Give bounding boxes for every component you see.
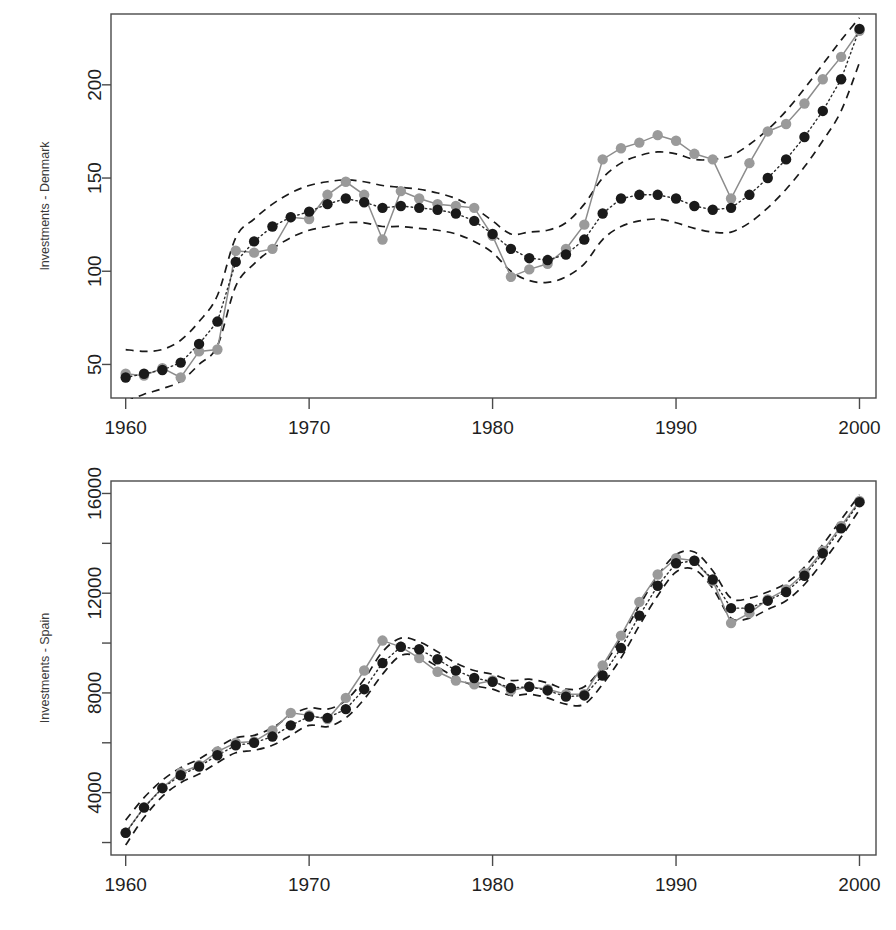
observed-point — [634, 597, 644, 607]
fitted-point — [597, 670, 607, 680]
observed-point — [689, 149, 699, 159]
panel-spain: 40008000120001600019601970198019902000In… — [0, 465, 896, 930]
fitted-point — [469, 216, 479, 226]
plot-group: 40008000120001600019601970198019902000In… — [38, 467, 881, 895]
y-tick-label: 4000 — [85, 772, 106, 814]
fitted-point — [726, 203, 736, 213]
fitted-line — [126, 502, 860, 833]
observed-line — [126, 31, 860, 378]
fitted-point — [854, 24, 864, 34]
fitted-point — [304, 206, 314, 216]
fitted-point — [432, 205, 442, 215]
fitted-point — [524, 253, 534, 263]
observed-point — [671, 136, 681, 146]
fitted-point — [506, 683, 516, 693]
observed-point — [341, 693, 351, 703]
fitted-point — [781, 154, 791, 164]
observed-point — [597, 154, 607, 164]
fitted-point — [506, 244, 516, 254]
x-tick-label: 1990 — [655, 874, 697, 895]
fitted-point — [726, 603, 736, 613]
y-tick-label: 150 — [85, 162, 106, 194]
observed-point — [267, 244, 277, 254]
observed-point — [377, 635, 387, 645]
fitted-point — [322, 713, 332, 723]
fitted-point — [249, 236, 259, 246]
observed-point — [763, 126, 773, 136]
observed-point — [432, 667, 442, 677]
figure-root: 5010015020019601970198019902000Investmen… — [0, 0, 896, 930]
y-axis-title: Investments - Spain — [38, 613, 52, 724]
x-tick-label: 1990 — [655, 417, 697, 438]
fitted-point — [432, 654, 442, 664]
observed-point — [322, 190, 332, 200]
fitted-point — [157, 783, 167, 793]
observed-line — [126, 501, 860, 833]
fitted-point — [469, 673, 479, 683]
fitted-point — [212, 316, 222, 326]
x-tick-label: 1970 — [288, 874, 330, 895]
observed-point — [249, 247, 259, 257]
fitted-point — [763, 595, 773, 605]
fitted-point — [194, 339, 204, 349]
fitted-point — [836, 74, 846, 84]
observed-point — [396, 186, 406, 196]
fitted-point — [616, 643, 626, 653]
fitted-point — [120, 828, 130, 838]
fitted-point — [451, 665, 461, 675]
fitted-point — [377, 203, 387, 213]
fitted-point — [267, 221, 277, 231]
observed-point — [286, 708, 296, 718]
observed-point — [414, 193, 424, 203]
fitted-point — [341, 193, 351, 203]
observed-point — [506, 272, 516, 282]
fitted-point — [176, 770, 186, 780]
observed-point — [341, 177, 351, 187]
fitted-point — [744, 190, 754, 200]
y-tick-label: 200 — [85, 69, 106, 101]
fitted-point — [579, 690, 589, 700]
fitted-point — [708, 205, 718, 215]
fitted-point — [139, 802, 149, 812]
fitted-point — [322, 199, 332, 209]
fitted-line — [126, 29, 860, 378]
fitted-point — [304, 711, 314, 721]
fitted-point — [487, 677, 497, 687]
y-axis-title: Investments - Denmark — [38, 141, 52, 271]
fitted-point — [542, 685, 552, 695]
observed-point — [451, 675, 461, 685]
curves-group — [120, 495, 864, 845]
observed-point — [708, 154, 718, 164]
observed-point — [176, 372, 186, 382]
band-upper-band — [126, 18, 860, 352]
fitted-point — [561, 691, 571, 701]
fitted-point — [744, 603, 754, 613]
observed-point — [652, 130, 662, 140]
fitted-point — [818, 548, 828, 558]
observed-point — [652, 569, 662, 579]
fitted-point — [231, 740, 241, 750]
fitted-point — [231, 257, 241, 267]
x-tick-label: 2000 — [838, 874, 880, 895]
fitted-point — [451, 208, 461, 218]
fitted-point — [799, 132, 809, 142]
observed-point — [781, 119, 791, 129]
fitted-point — [763, 173, 773, 183]
observed-point — [616, 143, 626, 153]
plot-box — [111, 14, 876, 398]
fitted-point — [634, 610, 644, 620]
y-tick-label: 50 — [85, 354, 106, 375]
x-tick-label: 1960 — [105, 417, 147, 438]
fitted-point — [652, 190, 662, 200]
fitted-point — [854, 497, 864, 507]
panel-denmark: 5010015020019601970198019902000Investmen… — [0, 0, 896, 465]
y-tick-label: 100 — [85, 255, 106, 287]
observed-point — [836, 52, 846, 62]
observed-point — [231, 246, 241, 256]
observed-point — [744, 158, 754, 168]
fitted-point — [194, 761, 204, 771]
fitted-point — [120, 372, 130, 382]
fitted-point — [212, 750, 222, 760]
observed-point — [616, 630, 626, 640]
fitted-point — [579, 234, 589, 244]
